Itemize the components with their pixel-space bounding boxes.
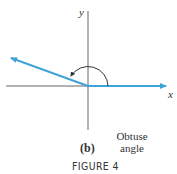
terminal-ray	[11, 58, 88, 86]
y-axis-label: y	[79, 6, 84, 18]
subfigure-label: (b)	[80, 141, 95, 156]
figure-caption: FIGURE 4	[72, 160, 119, 173]
description-line-1: Obtuse	[112, 130, 152, 142]
angle-arc	[71, 67, 108, 86]
description-line-2: angle	[112, 142, 152, 154]
x-axis-label: x	[168, 88, 173, 100]
angle-description: Obtuse angle	[112, 130, 152, 154]
